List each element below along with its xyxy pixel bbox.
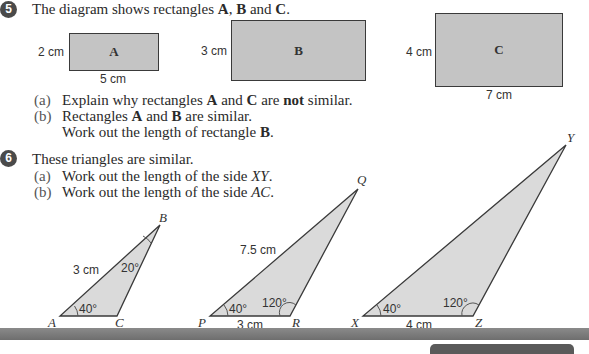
vertex-b-label: B	[159, 210, 167, 225]
angle-p-label: 40°	[229, 302, 247, 316]
triangle-abc: A B C 3 cm 40° 20°	[47, 210, 167, 330]
angle-b-label: 20°	[121, 261, 139, 275]
vertex-y-label: Y	[567, 130, 576, 145]
angle-a-label: 40°	[79, 302, 97, 316]
page-divider-band	[0, 328, 589, 340]
angle-z-label: 120°	[443, 296, 468, 310]
side-pq-label: 7.5 cm	[240, 243, 276, 257]
vertex-q-label: Q	[357, 172, 367, 187]
footer-tab	[430, 344, 574, 354]
angle-r-label: 120°	[262, 296, 287, 310]
triangle-pqr: P Q R 7.5 cm 3 cm 40° 120°	[197, 172, 367, 332]
triangle-xyz: X Y Z 4 cm 40° 120°	[350, 130, 576, 332]
side-ab-label: 3 cm	[73, 263, 99, 277]
angle-x-label: 40°	[383, 302, 401, 316]
